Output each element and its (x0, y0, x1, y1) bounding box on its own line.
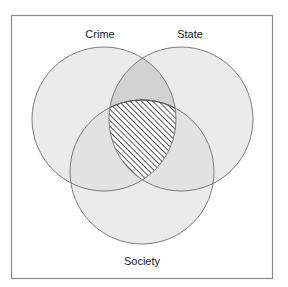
venn-diagram-canvas: Crime State Society (0, 0, 288, 287)
venn-label-society: Society (124, 255, 161, 267)
venn-label-state: State (177, 28, 203, 40)
venn-diagram-figure: Crime State Society (0, 0, 288, 287)
venn-label-crime: Crime (85, 28, 114, 40)
